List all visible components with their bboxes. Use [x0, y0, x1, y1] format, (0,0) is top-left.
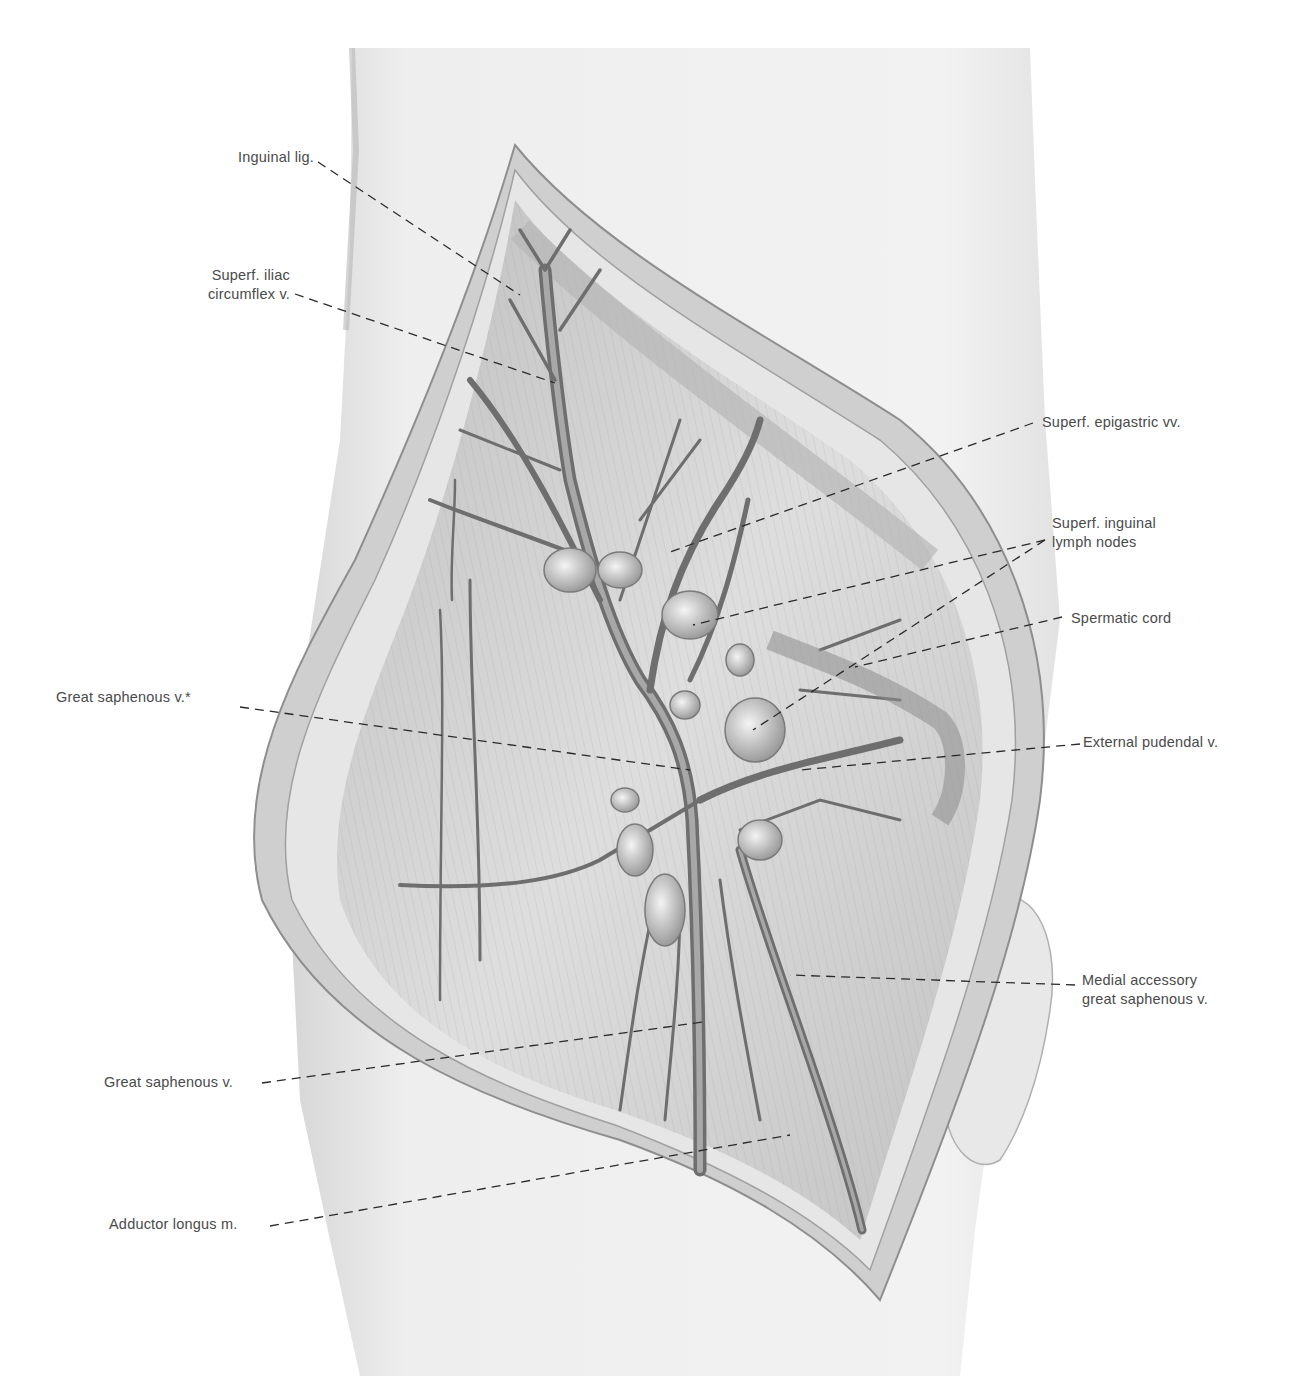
label-external-pudendal: External pudendal v.: [1083, 733, 1218, 752]
label-superf-inguinal-line2: lymph nodes: [1052, 533, 1156, 552]
label-spermatic-cord: Spermatic cord: [1071, 609, 1171, 628]
label-adductor-longus: Adductor longus m.: [109, 1215, 238, 1234]
label-medial-accessory-great-saphenous: Medial accessory great saphenous v.: [1082, 971, 1208, 1009]
label-superf-iliac-circumflex: Superf. iliac circumflex v.: [180, 266, 290, 304]
label-medial-accessory-line2: great saphenous v.: [1082, 990, 1208, 1009]
label-medial-accessory-line1: Medial accessory: [1082, 971, 1208, 990]
label-superf-iliac-line1: Superf. iliac: [180, 266, 290, 285]
label-inguinal-lig: Inguinal lig.: [200, 148, 314, 167]
label-superf-inguinal-nodes: Superf. inguinal lymph nodes: [1052, 514, 1156, 552]
label-great-saphenous: Great saphenous v.: [104, 1073, 233, 1092]
label-great-saphenous-star: Great saphenous v.*: [56, 688, 191, 707]
label-superf-inguinal-line1: Superf. inguinal: [1052, 514, 1156, 533]
anatomical-illustration: [0, 0, 1301, 1376]
label-superf-iliac-line2: circumflex v.: [180, 285, 290, 304]
label-superf-epigastric: Superf. epigastric vv.: [1042, 413, 1181, 432]
